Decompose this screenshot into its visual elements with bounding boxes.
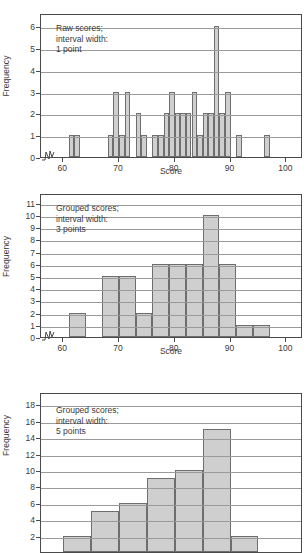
- y-axis-tick-label: 6: [17, 261, 35, 270]
- y-axis-tick-mark: [36, 504, 40, 505]
- y-axis-tick-mark: [36, 405, 40, 406]
- y-axis-tick-mark: [36, 422, 40, 423]
- annotation-3: Grouped scores; interval width: 5 points: [56, 405, 119, 437]
- y-axis-tick-label: 2: [17, 310, 35, 319]
- y-axis-tick-label: 3: [17, 89, 35, 98]
- histogram-bar: [119, 276, 136, 337]
- y-axis-tick-label: 12: [17, 451, 35, 460]
- y-axis-tick-mark: [36, 240, 40, 241]
- y-axis-tick-mark: [36, 326, 40, 327]
- figure-histogram-raw-1pt: Frequency 0123456 60708090100 Raw scores…: [0, 0, 307, 180]
- gridline: [41, 315, 301, 316]
- y-axis-tick-label: 11: [17, 200, 35, 209]
- y-axis-tick-label: 4: [17, 285, 35, 294]
- y-axis-tick-label: 3: [17, 297, 35, 306]
- gridline: [41, 521, 301, 522]
- gridline: [41, 456, 301, 457]
- y-axis-tick-label: 0: [17, 334, 35, 343]
- histogram-bar: [225, 92, 231, 157]
- y-axis-tick-label: 5: [17, 273, 35, 282]
- y-axis-tick-label: 18: [17, 401, 35, 410]
- gridline: [41, 115, 301, 116]
- y-axis-tick-label: 2: [17, 533, 35, 542]
- x-axis-tick-mark: [118, 158, 119, 162]
- y-axis-title-2: Frequency: [1, 204, 11, 309]
- y-axis-tick-mark: [36, 71, 40, 72]
- y-axis-tick-mark: [36, 455, 40, 456]
- histogram-bar: [102, 276, 119, 337]
- histogram-bar: [125, 92, 131, 157]
- x-axis-tick-mark: [285, 158, 286, 162]
- histogram-bar: [264, 135, 270, 157]
- y-axis-tick-label: 7: [17, 249, 35, 258]
- y-axis-tick-mark: [36, 265, 40, 266]
- annotation-2: Grouped scores; interval width: 3 points: [56, 203, 119, 235]
- y-axis-tick-label: 8: [17, 236, 35, 245]
- y-axis-title-3: Frequency: [1, 383, 11, 488]
- histogram-bar: [119, 503, 147, 552]
- y-axis-tick-mark: [36, 438, 40, 439]
- y-axis-tick-label: 5: [17, 45, 35, 54]
- y-axis-tick-label: 6: [17, 23, 35, 32]
- gridline: [41, 266, 301, 267]
- gridline: [41, 72, 301, 73]
- gridline: [41, 488, 301, 489]
- gridline: [41, 278, 301, 279]
- y-axis-tick-label: 1: [17, 322, 35, 331]
- y-axis-tick-mark: [36, 289, 40, 290]
- y-axis-tick-mark: [36, 204, 40, 205]
- histogram-bar: [91, 511, 119, 552]
- x-axis-tick-mark: [62, 158, 63, 162]
- y-axis-tick-label: 10: [17, 467, 35, 476]
- gridline: [41, 254, 301, 255]
- gridline: [41, 327, 301, 328]
- x-axis-title-2: Score: [40, 346, 302, 356]
- y-axis-tick-mark: [36, 216, 40, 217]
- y-axis-tick-mark: [36, 158, 40, 159]
- gridline: [41, 290, 301, 291]
- x-axis-tick-mark: [62, 338, 63, 342]
- y-axis-tick-label: 9: [17, 224, 35, 233]
- figure-histogram-grouped-3pt: Frequency 01234567891011 60708090100 Gro…: [0, 180, 307, 360]
- y-axis-tick-mark: [36, 338, 40, 339]
- gridline: [41, 302, 301, 303]
- y-axis-tick-label: 8: [17, 483, 35, 492]
- histogram-bar: [74, 135, 80, 157]
- gridline: [41, 472, 301, 473]
- annotation-1: Raw scores; interval width: 1 point: [56, 23, 108, 55]
- histogram-bar: [69, 313, 86, 337]
- gridline: [41, 94, 301, 95]
- x-axis-title-1: Score: [40, 166, 302, 176]
- y-axis-tick-label: 16: [17, 418, 35, 427]
- histogram-bar: [236, 135, 242, 157]
- y-axis-tick-mark: [36, 301, 40, 302]
- axis-break-icon-2: [41, 329, 55, 341]
- y-axis-tick-mark: [36, 471, 40, 472]
- x-axis-tick-mark: [118, 338, 119, 342]
- axis-break-icon-1: [41, 149, 55, 161]
- histogram-bar: [203, 215, 220, 337]
- y-axis-tick-mark: [36, 93, 40, 94]
- x-axis-tick-mark: [230, 158, 231, 162]
- gridline: [41, 439, 301, 440]
- y-axis-tick-mark: [36, 314, 40, 315]
- y-axis-tick-mark: [36, 114, 40, 115]
- gridline: [41, 538, 301, 539]
- gridline: [41, 241, 301, 242]
- y-axis-tick-mark: [36, 277, 40, 278]
- y-axis-tick-mark: [36, 49, 40, 50]
- y-axis-tick-mark: [36, 487, 40, 488]
- y-axis-tick-label: 4: [17, 516, 35, 525]
- y-axis-tick-label: 14: [17, 434, 35, 443]
- y-axis-tick-mark: [36, 253, 40, 254]
- histogram-bar: [141, 135, 147, 157]
- gridline: [41, 505, 301, 506]
- y-axis-tick-label: 10: [17, 212, 35, 221]
- figure-histogram-grouped-5pt: Frequency 24681012141618 Grouped scores;…: [0, 360, 307, 531]
- y-axis-tick-label: 4: [17, 67, 35, 76]
- x-axis-tick-mark: [174, 158, 175, 162]
- histogram-bar: [203, 429, 231, 552]
- x-axis-tick-mark: [285, 338, 286, 342]
- y-axis-tick-mark: [36, 136, 40, 137]
- y-axis-title-1: Frequency: [1, 26, 11, 126]
